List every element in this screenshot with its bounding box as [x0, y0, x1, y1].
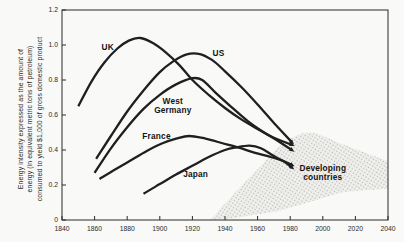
- x-tick-label-1880: 1880: [120, 225, 135, 232]
- y-axis-title: Energy intensity expressed as the amount…: [16, 12, 46, 226]
- chart-svg: 1840186018801900192019401960198020002020…: [0, 0, 404, 242]
- x-tick-label-1940: 1940: [217, 225, 232, 232]
- y-tick-label-0.2: 0.2: [49, 181, 59, 188]
- x-tick-label-1980: 1980: [283, 225, 298, 232]
- label-japan: Japan: [183, 169, 208, 179]
- energy-intensity-chart: 1840186018801900192019401960198020002020…: [0, 0, 404, 242]
- curve-us: [96, 53, 292, 158]
- x-tick-label-1920: 1920: [185, 225, 200, 232]
- label-west-germany: WestGermany: [154, 96, 192, 115]
- y-axis-title-line1: Energy intensity expressed as the amount…: [16, 12, 25, 226]
- x-tick-label-2020: 2020: [348, 225, 363, 232]
- label-france: France: [142, 131, 171, 141]
- curve-west-germany: [95, 78, 292, 173]
- x-tick-label-2040: 2040: [380, 225, 395, 232]
- y-axis: 00.20.40.60.81.01.2: [49, 6, 66, 223]
- y-tick-label-0.8: 0.8: [49, 76, 59, 83]
- x-tick-label-1860: 1860: [87, 225, 102, 232]
- x-tick-label-1960: 1960: [250, 225, 265, 232]
- label-developing-countries: Developingcountries: [299, 163, 346, 182]
- y-tick-label-0: 0: [54, 216, 58, 223]
- y-axis-title-line2: energy (in equivalent metric tons of pet…: [25, 12, 34, 226]
- y-tick-label-1.0: 1.0: [49, 41, 59, 48]
- y-tick-label-1.2: 1.2: [49, 6, 59, 13]
- label-uk: UK: [101, 42, 113, 52]
- x-tick-label-2000: 2000: [315, 225, 330, 232]
- y-tick-label-0.4: 0.4: [49, 146, 59, 153]
- x-tick-label-1900: 1900: [152, 225, 167, 232]
- x-axis: 1840186018801900192019401960198020002020…: [54, 216, 395, 232]
- y-tick-label-0.6: 0.6: [49, 111, 59, 118]
- y-axis-title-line3: consumed to yield $1,000 of gross domest…: [35, 12, 44, 226]
- x-tick-label-1840: 1840: [54, 225, 69, 232]
- label-us: US: [213, 48, 225, 58]
- developing-countries-band: [210, 133, 388, 221]
